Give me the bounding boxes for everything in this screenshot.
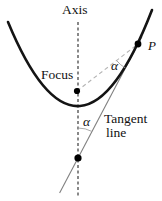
focus-label: Focus	[41, 68, 73, 82]
angle-alpha-lower-label: α	[83, 115, 90, 129]
tangent-line-label-word1: Tangent	[104, 111, 147, 126]
angle-alpha-upper-label: α	[111, 59, 118, 73]
diagram-canvas	[0, 0, 162, 201]
axis-label: Axis	[62, 3, 88, 17]
parabola-tangent-diagram: Axis Focus P α α Tangentline	[0, 0, 162, 201]
tangent-line-label-word2: line	[106, 126, 147, 140]
point-p-dot	[135, 41, 142, 48]
focal-chord-dashed-line	[77, 44, 138, 91]
tangent-line-label: Tangentline	[104, 112, 147, 140]
tangent-axis-intersection-dot	[74, 154, 81, 161]
focus-dot	[74, 88, 80, 94]
point-p-label: P	[148, 39, 156, 53]
